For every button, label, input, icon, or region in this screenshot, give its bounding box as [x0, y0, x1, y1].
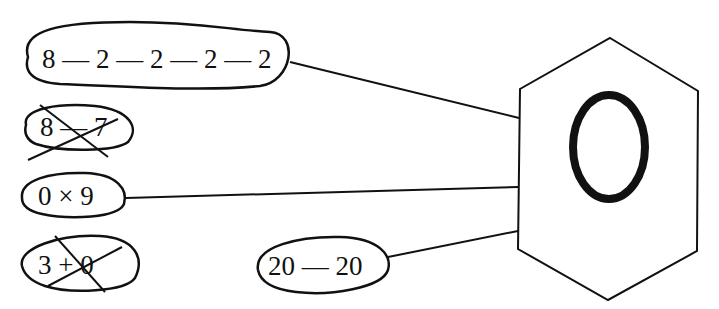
expression-e4: 3 + 0	[38, 252, 94, 279]
expression-e1: 8 — 2 — 2 — 2 — 2	[42, 46, 272, 73]
target-zero	[573, 95, 645, 199]
connector-e1	[290, 62, 519, 118]
expression-e3: 0 × 9	[38, 183, 94, 210]
expression-e5: 20 — 20	[268, 253, 363, 280]
connector-e5	[388, 231, 518, 257]
expression-e2: 8 — 7	[40, 114, 108, 141]
connector-e3	[126, 187, 518, 198]
target-hexagon	[518, 38, 698, 300]
